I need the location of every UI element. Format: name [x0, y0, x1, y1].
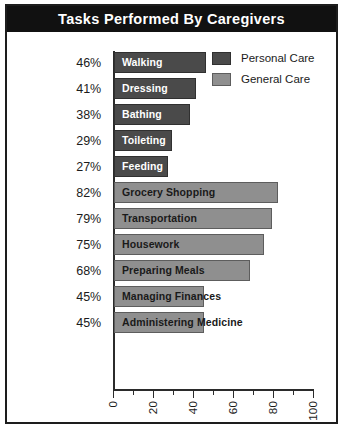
bar-value-label: 45%: [7, 289, 101, 306]
x-tick-label-80: 80: [268, 401, 280, 414]
bar-row: 27% Feeding: [7, 155, 336, 181]
chart-legend: Personal Care General Care: [212, 48, 315, 90]
bar-category-label: Bathing: [115, 109, 162, 120]
x-tick-60: [233, 390, 234, 398]
bar-value-label: 82%: [7, 185, 101, 202]
x-tick-label-60: 60: [228, 401, 240, 414]
x-tick-minor-90: [293, 390, 294, 395]
bar-row: 79% Transportation: [7, 207, 336, 233]
bar-category-label: Housework: [115, 239, 180, 250]
x-tick-label-20: 20: [148, 401, 160, 414]
bar-category-label: Feeding: [115, 161, 163, 172]
x-tick-minor-10: [133, 390, 134, 395]
bar-category-label: Transportation: [115, 213, 197, 224]
bar-category-label: Preparing Meals: [115, 265, 205, 276]
bar-row: 75% Housework: [7, 233, 336, 259]
bar-value-label: 38%: [7, 107, 101, 124]
legend-item-general-care: General Care: [212, 69, 315, 90]
bar-value-label: 68%: [7, 263, 101, 280]
x-tick-80: [273, 390, 274, 398]
bar-category-label: Toileting: [115, 135, 166, 146]
page-title: Tasks Performed By Caregivers: [58, 12, 285, 27]
x-tick-label-40: 40: [188, 401, 200, 414]
x-tick-minor-30: [173, 390, 174, 395]
bar-row: 38% Bathing: [7, 103, 336, 129]
bar-dressing: Dressing: [114, 78, 196, 99]
legend-label: Personal Care: [241, 53, 315, 65]
bar-value-label: 27%: [7, 159, 101, 176]
bar-bathing: Bathing: [114, 104, 190, 125]
bar-feeding: Feeding: [114, 156, 168, 177]
x-tick-20: [153, 390, 154, 398]
bar-value-label: 79%: [7, 211, 101, 228]
x-tick-label-0: 0: [108, 401, 120, 408]
bar-row: 29% Toileting: [7, 129, 336, 155]
bar-category-label: Dressing: [115, 83, 168, 94]
bar-value-label: 45%: [7, 315, 101, 332]
bar-value-label: 41%: [7, 81, 101, 98]
x-tick-40: [193, 390, 194, 398]
bar-row: 45% Administering Medicine: [7, 311, 336, 337]
x-tick-0: [113, 390, 114, 398]
bar-row: 82% Grocery Shopping: [7, 181, 336, 207]
bar-category-label: Grocery Shopping: [115, 187, 215, 198]
plot-area: 46% Walking 41% Dressing 38% Bathing 29%: [7, 33, 336, 422]
legend-swatch-icon: [212, 52, 231, 65]
bar-category-label: Administering Medicine: [115, 317, 243, 328]
bar-category-label: Walking: [115, 57, 163, 68]
bar-value-label: 29%: [7, 133, 101, 150]
bar-transportation: Transportation: [114, 208, 272, 229]
bar-category-label: Managing Finances: [115, 291, 221, 302]
legend-swatch-icon: [212, 73, 231, 86]
bar-value-label: 46%: [7, 55, 101, 72]
bar-managing-finances: Managing Finances: [114, 286, 204, 307]
bar-toileting: Toileting: [114, 130, 172, 151]
x-tick-minor-50: [213, 390, 214, 395]
x-tick-100: [313, 390, 314, 398]
chart-figure: Tasks Performed By Caregivers 46% Walkin…: [0, 0, 343, 431]
bar-housework: Housework: [114, 234, 264, 255]
legend-label: General Care: [241, 74, 310, 86]
bar-administering-medicine: Administering Medicine: [114, 312, 204, 333]
bar-walking: Walking: [114, 52, 206, 73]
bar-grocery-shopping: Grocery Shopping: [114, 182, 278, 203]
x-tick-minor-70: [253, 390, 254, 395]
bars-container: 46% Walking 41% Dressing 38% Bathing 29%: [7, 51, 336, 337]
bar-value-label: 75%: [7, 237, 101, 254]
bar-row: 68% Preparing Meals: [7, 259, 336, 285]
bar-row: 45% Managing Finances: [7, 285, 336, 311]
chart-title-banner: Tasks Performed By Caregivers: [7, 6, 336, 32]
x-tick-label-100: 100: [308, 401, 320, 421]
legend-item-personal-care: Personal Care: [212, 48, 315, 69]
bar-preparing-meals: Preparing Meals: [114, 260, 250, 281]
